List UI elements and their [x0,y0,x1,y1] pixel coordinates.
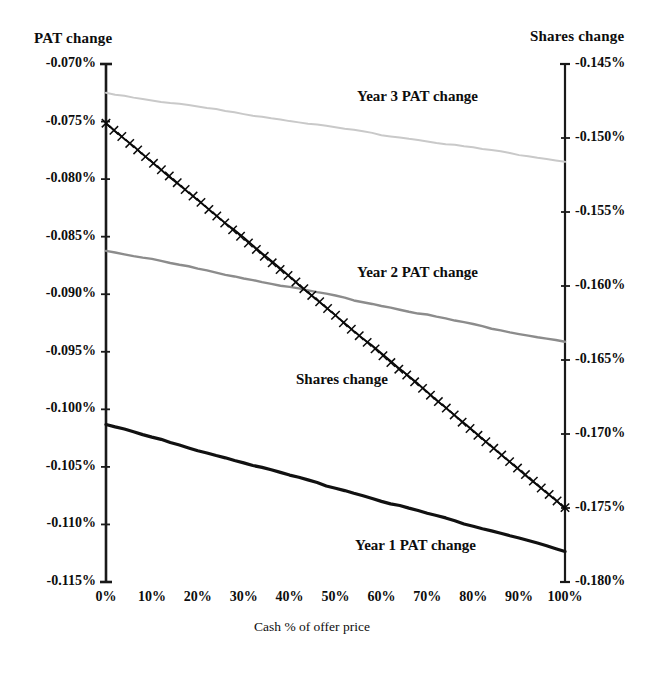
chart-figure: PAT change Shares change Cash % of offer… [0,0,665,678]
plot-area [0,0,665,678]
